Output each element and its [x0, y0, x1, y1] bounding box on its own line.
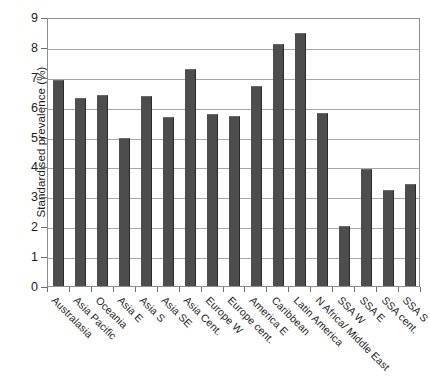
x-tick-mark: [354, 287, 355, 292]
x-tick-mark: [398, 287, 399, 292]
gridline: [48, 49, 419, 50]
y-tick-label: 4: [18, 160, 38, 174]
y-tick-label: 7: [18, 71, 38, 85]
y-tick-label: 3: [18, 190, 38, 204]
bar: [207, 114, 218, 286]
x-tick-mark: [310, 287, 311, 292]
bar: [119, 138, 130, 286]
x-tick-mark: [113, 287, 114, 292]
bar: [273, 44, 284, 286]
y-tick-label: 0: [18, 280, 38, 294]
bar: [97, 95, 108, 286]
x-tick-mark: [223, 287, 224, 292]
bar: [53, 80, 64, 286]
y-tick-label: 1: [18, 250, 38, 264]
x-tick-mark: [288, 287, 289, 292]
y-tick-label: 5: [18, 131, 38, 145]
bar-chart: Standardised prevalence (%) 0123456789 A…: [0, 0, 430, 377]
y-tick-label: 8: [18, 41, 38, 55]
y-tick-label: 6: [18, 101, 38, 115]
gridline: [48, 79, 419, 80]
x-tick-mark: [179, 287, 180, 292]
x-tick-mark: [332, 287, 333, 292]
bar: [405, 184, 416, 286]
x-tick-mark: [376, 287, 377, 292]
bar: [163, 117, 174, 286]
bar: [383, 190, 394, 286]
x-tick-mark: [266, 287, 267, 292]
y-tick-label: 2: [18, 220, 38, 234]
x-tick-mark: [135, 287, 136, 292]
x-tick-mark: [201, 287, 202, 292]
x-tick-mark: [157, 287, 158, 292]
bar: [361, 169, 372, 286]
x-tick-mark: [244, 287, 245, 292]
bar: [295, 33, 306, 286]
plot-area: [47, 18, 420, 287]
bar: [251, 86, 262, 286]
x-tick-mark: [69, 287, 70, 292]
bar: [339, 226, 350, 286]
bar: [75, 98, 86, 286]
bar: [317, 113, 328, 286]
x-tick-mark: [91, 287, 92, 292]
bar: [141, 96, 152, 286]
y-tick-label: 9: [18, 11, 38, 25]
bar: [185, 69, 196, 286]
bar: [229, 116, 240, 286]
x-tick-mark: [47, 287, 48, 292]
x-tick-mark: [420, 287, 421, 292]
